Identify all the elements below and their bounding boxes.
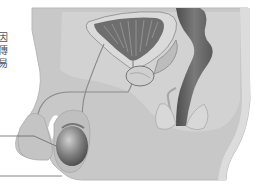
prostate xyxy=(126,66,154,86)
anatomy-illustration xyxy=(0,0,256,190)
testis xyxy=(56,126,88,166)
